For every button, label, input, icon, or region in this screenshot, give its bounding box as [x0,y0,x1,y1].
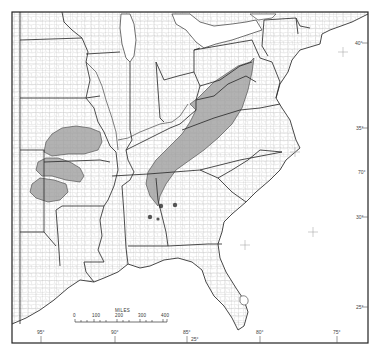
scale-tick-0: 0 [73,313,76,318]
longitude-label-90: 90° [111,329,119,335]
longitude-labels: 95° 90° 85° 80° 75° 25° [37,329,341,342]
scale-tick-300: 300 [138,313,147,318]
scale-tick-400: 400 [161,313,170,318]
latitude-label-30: 30° [356,214,364,220]
land-layer [12,12,368,330]
latitude-label-25: 25° [356,304,364,310]
point-marker [156,217,159,220]
longitude-label-85: 85° [183,329,191,335]
scale-tick-100: 100 [92,313,101,318]
scale-bar: MILES 0 100 200 300 400 [73,308,170,322]
point-marker [173,203,177,207]
corner-label-right: 70° [358,169,366,175]
scale-tick-200: 200 [115,313,124,318]
latitude-label-35: 35° [356,125,364,131]
longitude-label-75: 75° [333,329,341,335]
latitude-label-40: 40° [355,40,363,46]
longitude-label-95: 95° [37,329,45,335]
point-marker [148,215,152,219]
longitude-label-80: 80° [256,329,264,335]
latitude-labels: 40° 35° 70° 30° 25° [355,40,366,310]
map-figure: 95° 90° 85° 80° 75° 25° 40° 35° 70° 30° … [0,0,381,358]
map-canvas: 95° 90° 85° 80° 75° 25° 40° 35° 70° 30° … [0,0,381,358]
corner-label-bottom: 25° [191,336,199,342]
lake-okeechobee [240,296,248,305]
